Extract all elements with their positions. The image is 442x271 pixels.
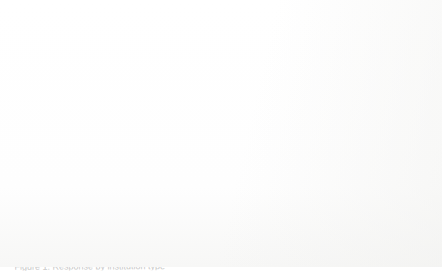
y-tick-label-70: 70% — [0, 36, 41, 46]
bar-slot-libraries: 77.27% — [168, 15, 211, 219]
bar-libraries[interactable] — [168, 22, 211, 219]
data-label-libraries: 77.27% — [164, 31, 214, 41]
chart-skew-wrapper: 0% 10% 20% 30% 40% 50% 60% 70% 80% — [0, 0, 442, 268]
y-tick-label-10: 10% — [0, 189, 41, 199]
y-tick-label-40: 40% — [0, 113, 41, 123]
y-tick-label-50: 50% — [0, 87, 41, 97]
y-tick-label-80: 80% — [0, 11, 41, 21]
x-tick-label-archives-records-office: Archives/ Records office — [47, 224, 141, 250]
y-axis: 0% 10% 20% 30% 40% 50% 60% 70% 80% — [0, 16, 41, 220]
plot-area: 9.10 % 77.27% 4.55 % 9.10 % — [49, 14, 428, 219]
x-tick-label-libraries: Libraries — [144, 224, 234, 237]
bar-slot-museums: 9.10 % — [358, 14, 401, 218]
x-tick-label-media: Media — [239, 224, 329, 237]
bars-layer: 9.10 % 77.27% 4.55 % 9.10 % — [49, 14, 428, 219]
x-axis: Archives/ Records office Libraries Media… — [49, 223, 427, 260]
x-tick-label-museums: Museums — [334, 223, 424, 236]
y-tick-label-0: 0% — [0, 215, 41, 225]
cropped-caption: Figure 1: Response by institution type — [14, 261, 344, 271]
data-label-archives-records-office: 9.10 % — [69, 206, 119, 216]
y-tick-label-20: 20% — [0, 164, 41, 174]
y-tick-marks — [0, 0, 441, 1]
y-tick-label-30: 30% — [0, 138, 41, 148]
bar-slot-archives-records-office: 9.10 % — [73, 15, 116, 219]
y-tick-mark-0 — [44, 220, 49, 221]
y-tick-label-60: 60% — [0, 62, 41, 72]
x-axis-line — [49, 217, 427, 219]
bar-slot-media: 4.55 % — [263, 15, 306, 219]
data-label-museums: 9.10 % — [354, 204, 404, 214]
